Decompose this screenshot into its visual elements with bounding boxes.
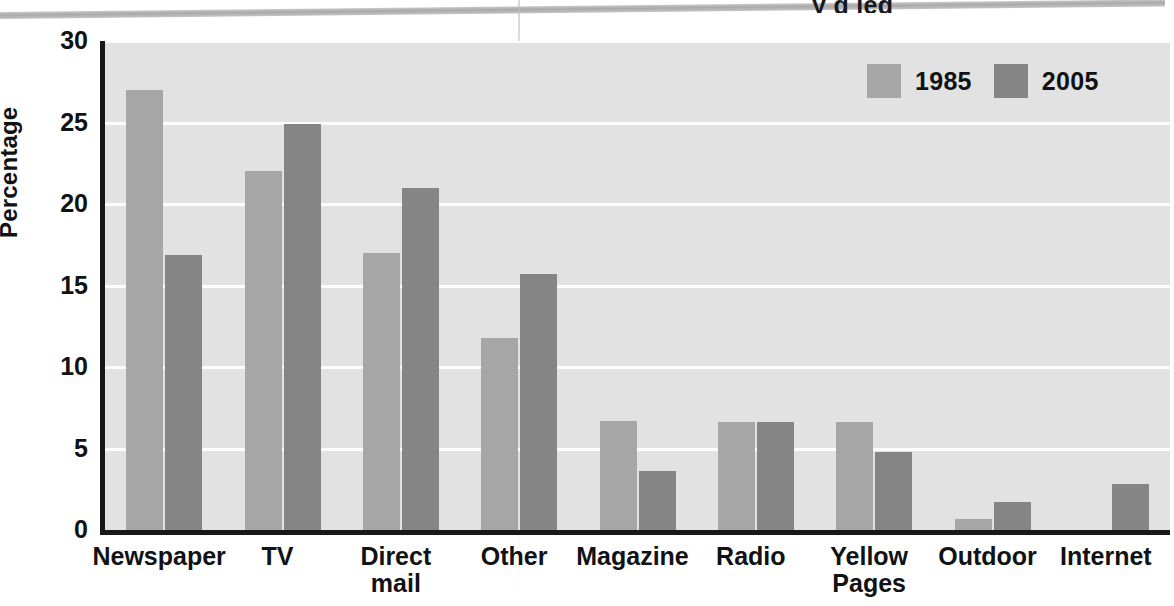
y-axis-tick-label: 30 <box>28 28 88 53</box>
bar-1985-magazine <box>600 421 637 530</box>
bar-2005-other <box>520 274 557 530</box>
legend-swatch-icon <box>867 64 901 98</box>
x-axis-tick-label: Internet <box>1021 543 1174 570</box>
bar-1985-radio <box>718 422 755 530</box>
bar-2005-direct-mail <box>402 188 439 530</box>
legend-label: 1985 <box>915 67 972 96</box>
bar-2005-yellow-pages <box>875 452 912 530</box>
bar-1985-direct-mail <box>363 253 400 530</box>
gridline <box>105 122 1170 125</box>
y-axis-label: Percentage <box>0 107 23 238</box>
plot-area <box>100 41 1170 535</box>
gridline <box>105 41 1170 43</box>
legend-swatch-icon <box>994 64 1028 98</box>
bar-2005-outdoor <box>994 502 1031 530</box>
bar-2005-internet <box>1112 484 1149 530</box>
bar-1985-newspaper <box>126 90 163 530</box>
legend-item-2005[interactable]: 2005 <box>994 64 1099 98</box>
y-axis-tick-label: 15 <box>28 273 88 298</box>
bar-2005-radio <box>757 422 794 530</box>
chart-legend: 19852005 <box>867 64 1099 98</box>
bar-1985-outdoor <box>955 519 992 530</box>
y-axis-tick-label: 0 <box>28 517 88 542</box>
bar-1985-yellow-pages <box>836 422 873 530</box>
y-axis-tick-label: 10 <box>28 354 88 379</box>
bar-1985-tv <box>245 171 282 530</box>
y-axis-tick-label: 25 <box>28 110 88 135</box>
legend-label: 2005 <box>1042 67 1099 96</box>
bar-2005-newspaper <box>165 255 202 530</box>
y-axis-tick-label: 5 <box>28 436 88 461</box>
legend-item-1985[interactable]: 1985 <box>867 64 972 98</box>
bar-2005-tv <box>284 124 321 530</box>
bar-1985-other <box>481 338 518 530</box>
y-axis-tick-label: 20 <box>28 191 88 216</box>
bar-2005-magazine <box>639 471 676 530</box>
